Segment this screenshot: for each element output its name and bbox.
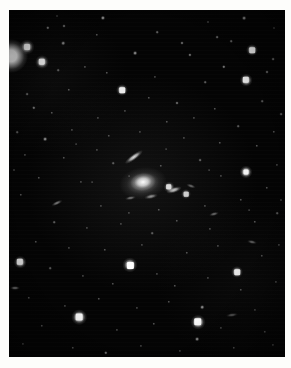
overexposed-edge-blob <box>9 39 28 73</box>
sky-image-frame <box>9 10 285 357</box>
edge-blob-layer <box>9 10 285 357</box>
screenshot-page <box>0 0 291 368</box>
